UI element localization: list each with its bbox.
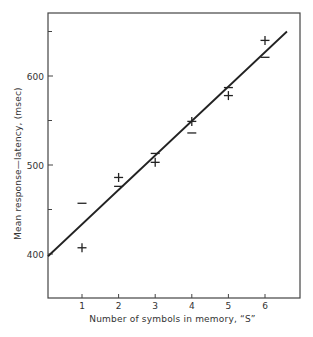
y-tick-label: 500 — [27, 161, 44, 171]
y-tick-label: 600 — [27, 72, 44, 82]
x-tick-label: 6 — [262, 301, 268, 311]
x-tick-label: 2 — [116, 301, 122, 311]
y-axis-label: Mean response—latency, (msec) — [13, 90, 27, 240]
data-points — [78, 36, 270, 252]
plus-marker — [261, 36, 270, 45]
plus-marker — [224, 91, 233, 100]
chart-plot: 400500600 123456 — [0, 0, 313, 337]
y-axis-ticks: 400500600 — [27, 32, 53, 260]
x-tick-label: 4 — [189, 301, 195, 311]
x-axis-label: Number of symbols in memory, “S” — [60, 314, 285, 324]
plus-marker — [78, 243, 87, 252]
plus-marker — [114, 173, 123, 182]
x-axis-ticks: 123456 — [79, 294, 268, 311]
x-tick-label: 5 — [226, 301, 232, 311]
regression-line — [48, 32, 287, 257]
x-tick-label: 1 — [79, 301, 85, 311]
x-tick-label: 3 — [152, 301, 158, 311]
y-tick-label: 400 — [27, 250, 44, 260]
